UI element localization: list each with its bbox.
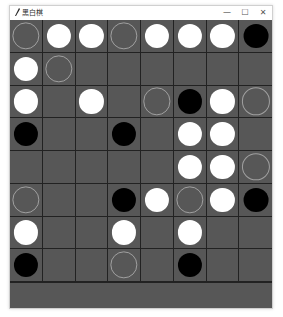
black-piece xyxy=(14,122,38,146)
board-cell-r0-c5[interactable] xyxy=(174,20,207,53)
board-cell-r7-c1[interactable] xyxy=(43,249,76,282)
valid-move-marker[interactable] xyxy=(242,153,270,180)
board-cell-r4-c1[interactable] xyxy=(43,151,76,184)
black-piece xyxy=(243,24,268,48)
valid-move-marker[interactable] xyxy=(12,186,39,213)
valid-move-marker[interactable] xyxy=(176,186,203,213)
board-cell-r6-c0[interactable] xyxy=(10,217,43,250)
board-cell-r2-c2[interactable] xyxy=(76,86,109,119)
black-piece xyxy=(112,188,136,212)
black-piece xyxy=(112,122,136,146)
game-canvas[interactable] xyxy=(10,20,272,308)
black-piece xyxy=(178,89,202,113)
board-cell-r5-c2[interactable] xyxy=(76,184,109,217)
status-strip xyxy=(10,282,272,308)
board-cell-r4-c6[interactable] xyxy=(207,151,240,184)
board-cell-r2-c6[interactable] xyxy=(207,86,240,119)
board-cell-r3-c6[interactable] xyxy=(207,118,240,151)
title-bar[interactable]: 黑白棋 — ☐ ✕ xyxy=(10,6,272,20)
board-cell-r2-c0[interactable] xyxy=(10,86,43,119)
board-cell-r6-c7[interactable] xyxy=(239,217,272,250)
othello-board[interactable] xyxy=(10,20,272,282)
board-cell-r7-c6[interactable] xyxy=(207,249,240,282)
board-cell-r0-c3[interactable] xyxy=(108,20,141,53)
board-cell-r6-c4[interactable] xyxy=(141,217,174,250)
board-cell-r1-c1[interactable] xyxy=(43,53,76,86)
minimize-button[interactable]: — xyxy=(218,6,236,20)
white-piece xyxy=(112,220,136,244)
board-cell-r3-c4[interactable] xyxy=(141,118,174,151)
app-window: 黑白棋 — ☐ ✕ xyxy=(9,5,273,309)
board-cell-r1-c3[interactable] xyxy=(108,53,141,86)
board-cell-r3-c1[interactable] xyxy=(43,118,76,151)
board-cell-r0-c7[interactable] xyxy=(239,20,272,53)
board-cell-r2-c7[interactable] xyxy=(239,86,272,119)
white-piece xyxy=(210,89,234,113)
board-cell-r6-c3[interactable] xyxy=(108,217,141,250)
board-cell-r3-c0[interactable] xyxy=(10,118,43,151)
valid-move-marker[interactable] xyxy=(110,22,137,49)
valid-move-marker[interactable] xyxy=(242,88,270,115)
window-title: 黑白棋 xyxy=(22,7,43,19)
board-cell-r6-c2[interactable] xyxy=(76,217,109,250)
board-cell-r1-c5[interactable] xyxy=(174,53,207,86)
board-cell-r5-c3[interactable] xyxy=(108,184,141,217)
board-cell-r0-c6[interactable] xyxy=(207,20,240,53)
maximize-button[interactable]: ☐ xyxy=(236,6,254,20)
valid-move-marker[interactable] xyxy=(143,88,170,115)
board-cell-r5-c1[interactable] xyxy=(43,184,76,217)
board-cell-r1-c0[interactable] xyxy=(10,53,43,86)
board-cell-r5-c0[interactable] xyxy=(10,184,43,217)
board-cell-r0-c1[interactable] xyxy=(43,20,76,53)
white-piece xyxy=(79,24,103,48)
board-cell-r6-c1[interactable] xyxy=(43,217,76,250)
board-cell-r2-c1[interactable] xyxy=(43,86,76,119)
board-cell-r7-c3[interactable] xyxy=(108,249,141,282)
board-cell-r4-c7[interactable] xyxy=(239,151,272,184)
board-cell-r1-c2[interactable] xyxy=(76,53,109,86)
valid-move-marker[interactable] xyxy=(12,22,39,49)
white-piece xyxy=(210,188,234,212)
black-piece xyxy=(178,253,202,277)
board-cell-r5-c5[interactable] xyxy=(174,184,207,217)
board-cell-r4-c2[interactable] xyxy=(76,151,109,184)
board-cell-r4-c3[interactable] xyxy=(108,151,141,184)
board-cell-r2-c3[interactable] xyxy=(108,86,141,119)
board-cell-r3-c5[interactable] xyxy=(174,118,207,151)
board-cell-r5-c4[interactable] xyxy=(141,184,174,217)
board-cell-r0-c4[interactable] xyxy=(141,20,174,53)
board-cell-r3-c2[interactable] xyxy=(76,118,109,151)
board-cell-r4-c4[interactable] xyxy=(141,151,174,184)
black-piece xyxy=(243,188,268,212)
board-cell-r7-c5[interactable] xyxy=(174,249,207,282)
valid-move-marker[interactable] xyxy=(45,55,72,82)
board-cell-r2-c5[interactable] xyxy=(174,86,207,119)
feather-icon xyxy=(14,8,20,17)
board-cell-r3-c3[interactable] xyxy=(108,118,141,151)
white-piece xyxy=(79,89,103,113)
board-cell-r6-c5[interactable] xyxy=(174,217,207,250)
board-cell-r4-c0[interactable] xyxy=(10,151,43,184)
white-piece xyxy=(14,220,38,244)
close-button[interactable]: ✕ xyxy=(254,6,272,20)
board-cell-r1-c6[interactable] xyxy=(207,53,240,86)
white-piece xyxy=(210,122,234,146)
board-cell-r7-c0[interactable] xyxy=(10,249,43,282)
board-cell-r5-c6[interactable] xyxy=(207,184,240,217)
board-cell-r6-c6[interactable] xyxy=(207,217,240,250)
valid-move-marker[interactable] xyxy=(110,251,137,278)
board-cell-r1-c4[interactable] xyxy=(141,53,174,86)
board-cell-r4-c5[interactable] xyxy=(174,151,207,184)
board-cell-r2-c4[interactable] xyxy=(141,86,174,119)
board-cell-r7-c2[interactable] xyxy=(76,249,109,282)
board-cell-r3-c7[interactable] xyxy=(239,118,272,151)
white-piece xyxy=(210,24,234,48)
white-piece xyxy=(178,220,202,244)
board-cell-r5-c7[interactable] xyxy=(239,184,272,217)
board-cell-r7-c7[interactable] xyxy=(239,249,272,282)
board-cell-r1-c7[interactable] xyxy=(239,53,272,86)
board-cell-r7-c4[interactable] xyxy=(141,249,174,282)
white-piece xyxy=(210,155,234,179)
board-cell-r0-c2[interactable] xyxy=(76,20,109,53)
board-cell-r0-c0[interactable] xyxy=(10,20,43,53)
